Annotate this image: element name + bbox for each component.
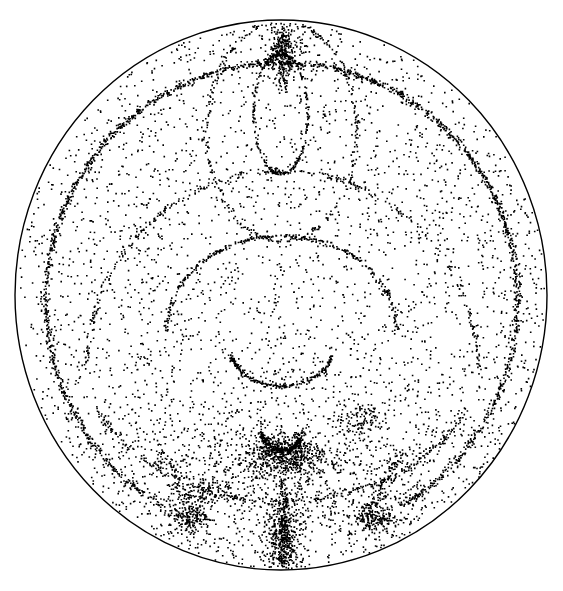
scatter-points bbox=[20, 22, 545, 569]
point-cloud bbox=[20, 22, 545, 569]
scatter-plot bbox=[0, 0, 563, 591]
